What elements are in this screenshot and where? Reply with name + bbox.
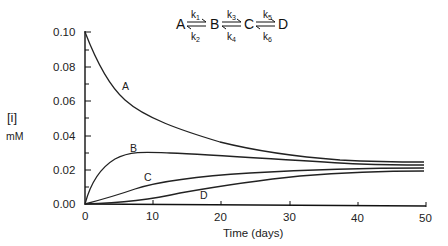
x-tick-label: 30 (283, 211, 296, 223)
x-tick-labels: 0 10 20 30 40 50 (82, 210, 432, 224)
curve-label-c: C (144, 171, 152, 183)
axes (85, 31, 426, 206)
x-tick-label: 50 (419, 212, 432, 224)
species-a: A (176, 16, 186, 32)
y-tick-label: 0.00 (53, 198, 75, 210)
rate-k1: k1 (191, 9, 200, 21)
x-tick-label: 20 (214, 211, 227, 223)
y-ticks (85, 32, 91, 187)
rate-k2: k2 (191, 31, 200, 43)
reaction-scheme: A k1 k2 B k3 k4 C k5 k6 D (176, 9, 288, 43)
rate-k4: k4 (227, 31, 236, 43)
y-tick-label: 0.08 (53, 61, 75, 73)
curve-label-a: A (122, 80, 129, 92)
x-tick-label: 10 (146, 210, 159, 222)
x-tick-label: 0 (82, 210, 88, 222)
curve-label-b: B (130, 142, 137, 154)
curve-label-d: D (200, 189, 208, 201)
rate-k5: k5 (263, 9, 272, 21)
curve-c (85, 168, 424, 204)
y-tick-label: 0.06 (53, 95, 75, 107)
curves (85, 32, 424, 204)
y-axis-label-unit: mM (6, 130, 24, 142)
y-tick-label: 0.04 (53, 130, 76, 142)
species-c: C (244, 16, 254, 32)
rate-k3: k3 (227, 9, 236, 21)
species-d: D (278, 16, 288, 32)
curve-d (85, 171, 424, 204)
x-axis-line (85, 204, 426, 206)
species-b: B (210, 16, 219, 32)
y-axis-label-symbol: [i] (7, 110, 17, 125)
rate-k6: k6 (263, 31, 272, 43)
y-tick-labels: 0.00 0.02 0.04 0.06 0.08 0.10 (53, 26, 76, 210)
y-tick-label: 0.10 (53, 26, 75, 38)
y-tick-label: 0.02 (53, 164, 75, 176)
chart: A k1 k2 B k3 k4 C k5 k6 D [i] mM (0, 0, 448, 246)
curve-b (85, 152, 424, 204)
x-axis-label: Time (days) (223, 227, 283, 239)
x-tick-label: 40 (351, 212, 364, 224)
